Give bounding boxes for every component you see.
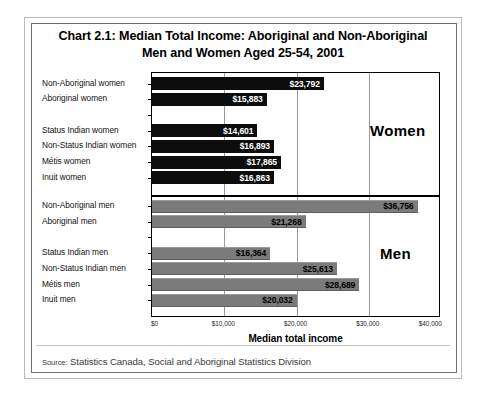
x-tick-label: $0: [151, 320, 158, 327]
bar-value-label: $16,364: [236, 248, 266, 258]
bar-value-label: $36,756: [383, 201, 413, 211]
bar-value-label: $15,883: [232, 94, 262, 104]
bar-value-label: $21,268: [271, 217, 301, 227]
title-line-1: Chart 2.1: Median Total Income: Aborigin…: [36, 28, 450, 45]
bar: $15,883: [152, 93, 267, 106]
bar: $17,865: [152, 156, 281, 169]
source-text: Statistics Canada, Social and Aboriginal…: [70, 356, 311, 367]
category-label: Status Indian women: [42, 125, 119, 135]
y-axis-tick: [148, 115, 152, 116]
category-label: Inuit men: [42, 294, 76, 304]
bar: $28,689: [152, 278, 359, 291]
plot-area: $23,792$15,883$14,601$16,893$17,865$16,8…: [151, 72, 440, 317]
bar: $21,268: [152, 215, 306, 228]
x-tick-label: $30,000: [356, 320, 379, 327]
title-line-2: Men and Women Aged 25-54, 2001: [36, 45, 450, 62]
category-label: Métis women: [42, 156, 90, 166]
bar: $16,863: [152, 171, 274, 184]
category-label: Aboriginal men: [42, 216, 97, 226]
bar-value-label: $16,863: [239, 173, 269, 183]
band-label-women: Women: [370, 122, 425, 139]
category-label: Aboriginal women: [42, 93, 107, 103]
source-label: Source:: [42, 358, 67, 367]
bar: $36,756: [152, 200, 418, 213]
category-label: Status Indian men: [42, 247, 108, 257]
category-label: Non-Status Indian men: [42, 263, 126, 273]
x-tick-label: $40,000: [419, 320, 442, 327]
category-label: Non-Status Indian women: [42, 140, 136, 150]
category-label-column: Non-Aboriginal womenAboriginal womenStat…: [36, 70, 146, 315]
category-label: Non-Aboriginal women: [42, 78, 125, 88]
band-divider: [152, 195, 439, 197]
bar-value-label: $25,613: [303, 264, 333, 274]
bar-value-label: $23,792: [290, 79, 320, 89]
bar: $20,032: [152, 294, 297, 307]
x-tick-label: $10,000: [212, 320, 235, 327]
x-axis-tick-labels: $0$10,000$20,000$30,000$40,000: [151, 320, 440, 332]
x-axis-title: Median total income: [151, 333, 440, 344]
bar: $16,893: [152, 140, 274, 153]
bar: $16,364: [152, 247, 270, 260]
bar-value-label: $16,893: [240, 141, 270, 151]
bar: $25,613: [152, 262, 337, 275]
category-label: Inuit women: [42, 172, 86, 182]
y-axis-tick: [148, 237, 152, 238]
category-label: Non-Aboriginal men: [42, 200, 114, 210]
category-label: Métis men: [42, 279, 80, 289]
chart-area: Non-Aboriginal womenAboriginal womenStat…: [36, 70, 446, 315]
source-divider: [36, 345, 450, 346]
band-label-men: Men: [380, 245, 411, 262]
bar-value-label: $14,601: [223, 126, 253, 136]
source-note: Source: Statistics Canada, Social and Ab…: [42, 356, 311, 367]
bar-value-label: $17,865: [247, 157, 277, 167]
bar-value-label: $28,689: [325, 280, 355, 290]
bar-value-label: $20,032: [262, 295, 292, 305]
bar: $23,792: [152, 77, 324, 90]
x-tick-label: $20,000: [284, 320, 307, 327]
page-title: Chart 2.1: Median Total Income: Aborigin…: [36, 28, 450, 62]
bar: $14,601: [152, 124, 257, 137]
